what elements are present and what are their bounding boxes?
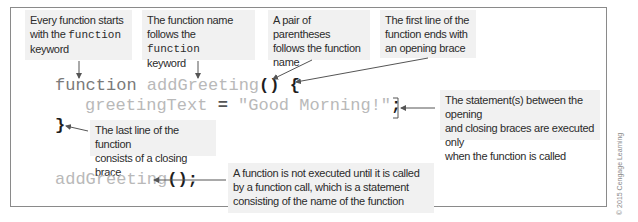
copyright-notice: © 2015 Cengage Learning [616, 133, 623, 215]
callout-text: and closing braces are executed only [445, 121, 595, 149]
callout-text-line: with the function [30, 27, 127, 42]
code-string: "Good Morning!" [238, 96, 391, 115]
callout-text: The first line of the [385, 13, 471, 27]
callout-text: by a function call, which is a statement [233, 180, 429, 194]
code-equals: = [218, 96, 228, 115]
callout-text: when the function is called [445, 149, 595, 163]
callout-text: A pair of parentheses [273, 13, 365, 41]
callout-text: follows the function [273, 41, 365, 55]
callout-text: follows the [147, 28, 196, 40]
callout-text: name [273, 55, 365, 69]
callout-text: Every function starts [30, 13, 127, 27]
code-call-name: addGreeting [55, 170, 167, 189]
code-parentheses: () [259, 76, 279, 95]
callout-function-keyword: Every function starts with the function … [25, 10, 132, 60]
callout-closing-brace: The last line of the function consists o… [90, 120, 216, 156]
code-call-parentheses: () [167, 170, 187, 189]
code-line-function-declaration: function addGreeting() { [55, 76, 300, 96]
code-line-closing-brace: } [55, 116, 65, 136]
code-function-name: addGreeting [147, 76, 259, 95]
callout-text: The statement(s) between the opening [445, 93, 595, 121]
callout-opening-brace: The first line of the function ends with… [380, 10, 476, 58]
callout-function-name: The function name follows the function k… [142, 10, 255, 60]
code-keyword-function: function [55, 76, 137, 95]
callout-text: A function is not executed until it is c… [233, 166, 429, 180]
code-closing-brace: } [55, 116, 65, 135]
inline-code-function: function [147, 43, 200, 55]
inline-code-function: function [68, 29, 121, 41]
code-opening-brace: { [290, 76, 300, 95]
callout-text-line: follows the function [147, 27, 250, 56]
callout-text: function ends with [385, 27, 471, 41]
code-variable: greetingText [85, 96, 207, 115]
callout-parentheses: A pair of parentheses follows the functi… [268, 10, 370, 60]
callout-text: keyword [30, 42, 127, 56]
callout-function-call: A function is not executed until it is c… [228, 163, 434, 213]
callout-text: consisting of the name of the function [233, 194, 429, 208]
code-line-statement: greetingText = "Good Morning!"; [85, 96, 401, 116]
callout-text: with the [30, 28, 68, 40]
callout-text: The last line of the function [95, 123, 211, 151]
callout-statements: The statement(s) between the opening and… [440, 90, 600, 140]
callout-text: keyword [147, 56, 250, 70]
code-semicolon: ; [391, 96, 401, 115]
callout-text: an opening brace [385, 41, 471, 55]
code-line-function-call: addGreeting(); [55, 170, 198, 190]
code-call-semicolon: ; [188, 170, 198, 189]
callout-text: The function name [147, 13, 250, 27]
